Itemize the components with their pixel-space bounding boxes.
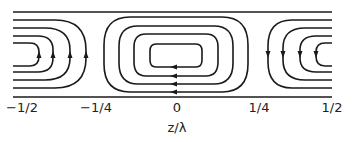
x-tick-label: 1/4 <box>249 100 270 115</box>
x-tick-label: 1/2 <box>322 100 343 115</box>
x-tick-label: −1/2 <box>6 100 38 115</box>
arrow-down-icon <box>298 51 303 58</box>
arrow-left-icon <box>170 82 177 87</box>
arrow-left-icon <box>170 74 177 79</box>
arrow-up-icon <box>68 51 73 58</box>
arrow-down-icon <box>314 51 319 58</box>
arrow-left-icon <box>170 65 177 70</box>
arrow-left-icon <box>170 90 177 95</box>
arrow-up-icon <box>84 51 89 58</box>
arrow-down-icon <box>266 51 271 58</box>
x-tick-label: 0 <box>173 100 181 115</box>
arrow-down-icon <box>281 51 286 58</box>
left-vortex <box>13 20 86 88</box>
x-axis-label: z/λ <box>168 120 187 135</box>
arrow-up-icon <box>37 51 42 58</box>
arrow-up-icon <box>51 51 56 58</box>
x-tick-label: −1/4 <box>80 100 112 115</box>
center-vortex <box>104 17 248 92</box>
